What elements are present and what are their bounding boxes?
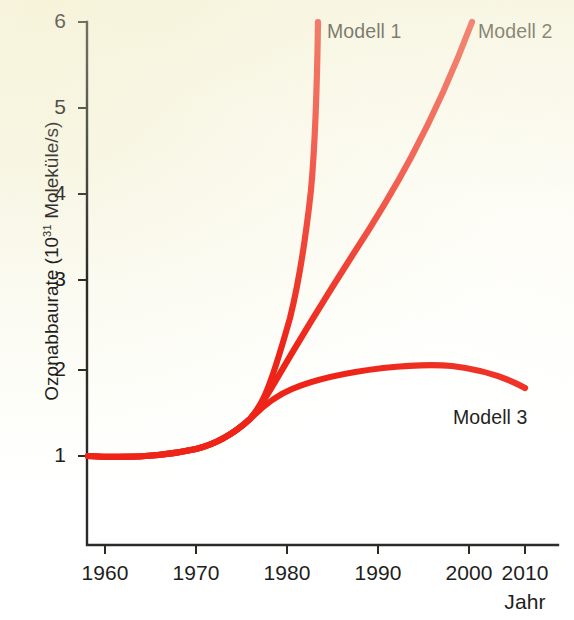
y-axis-title-suffix: Moleküle/s) [41, 122, 62, 224]
axis-lines [87, 22, 558, 545]
x-axis-title: Jahr [489, 591, 561, 612]
series-label-modell-1: Modell 1 [327, 22, 402, 42]
y-axis-title-exponent: 31 [41, 224, 53, 237]
chart-plot-area [0, 0, 574, 620]
x-tick-label-1960: 1960 [69, 562, 141, 583]
x-tick-label-2010: 2010 [489, 562, 561, 583]
y-axis-title-prefix: Ozonabbaurate (10 [41, 237, 62, 401]
chart-figure: 6 5 4 3 2 1 1960 1970 1980 1990 2000 201… [0, 0, 574, 620]
x-tick-label-1970: 1970 [160, 562, 232, 583]
x-tick-label-1990: 1990 [342, 562, 414, 583]
y-axis-title: Ozonabbaurate (1031 Moleküle/s) [41, 61, 63, 461]
x-tick-label-1980: 1980 [251, 562, 323, 583]
y-axis-ticks [78, 22, 87, 456]
y-tick-label-6: 6 [32, 10, 66, 31]
x-axis-ticks [105, 545, 525, 554]
series-label-modell-2: Modell 2 [478, 22, 553, 42]
series-label-modell-3: Modell 3 [453, 408, 528, 428]
